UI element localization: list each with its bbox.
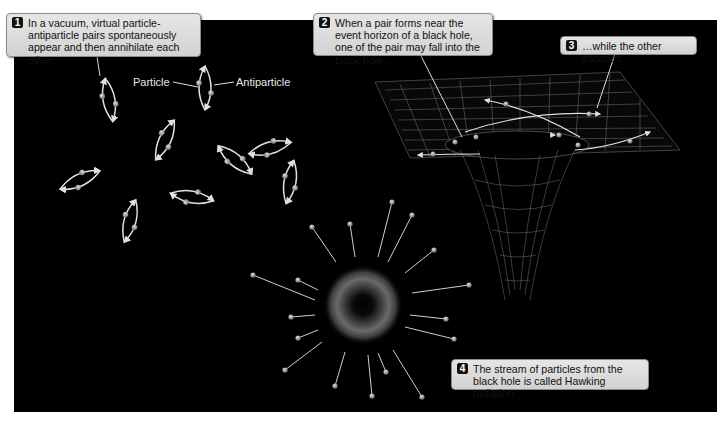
callout-4: 4 The stream of particles from the black…: [451, 359, 649, 390]
virtual-pairs: [56, 66, 302, 245]
black-hole: [323, 265, 403, 345]
callout-2: 2 When a pair forms near the event horiz…: [313, 13, 493, 56]
callout-3: 3 …while the other escapes.: [560, 36, 697, 55]
spacetime-grid: [375, 72, 680, 300]
step-number-2: 2: [319, 17, 330, 28]
callout-1: 1 In a vacuum, virtual particle-antipart…: [6, 13, 201, 57]
particle-label: Particle: [133, 76, 170, 88]
step-number-3: 3: [566, 40, 577, 51]
step-number-1: 1: [12, 17, 23, 28]
antiparticle-label: Antiparticle: [236, 76, 290, 88]
step-number-4: 4: [457, 363, 468, 374]
